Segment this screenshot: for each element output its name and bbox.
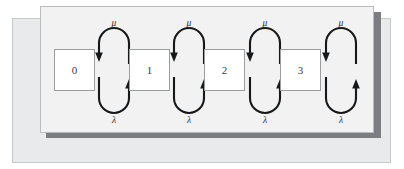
state-box-3: 3 [281, 50, 321, 91]
transition-pair-0-1: μ λ [95, 18, 133, 125]
lambda-arrowhead-3-next [352, 79, 360, 89]
mu-arrowhead-1-2 [170, 53, 178, 63]
lambda-arc-2-3 [250, 77, 280, 113]
state-box-1-label: 1 [147, 64, 153, 76]
state-transition-diagram: μ λ μ λ μ λ [41, 7, 374, 133]
lambda-arc-1-2 [174, 77, 204, 113]
transition-pair-2-3: μ λ [246, 18, 284, 125]
lambda-label-3-next: λ [338, 115, 343, 125]
mu-arrowhead-3-next [322, 53, 330, 63]
state-box-0-label: 0 [72, 64, 78, 76]
lambda-arc-3-next [326, 77, 356, 113]
lambda-label-1-2: λ [186, 115, 191, 125]
lambda-label-2-3: λ [262, 115, 267, 125]
mu-label-3-next: μ [338, 18, 344, 28]
mu-arc-3-next [326, 28, 356, 64]
state-box-2: 2 [205, 50, 245, 91]
figure-canvas: μ λ μ λ μ λ [0, 0, 404, 169]
state-box-1: 1 [130, 50, 170, 91]
transition-pair-1-2: μ λ [170, 18, 208, 125]
mu-arrowhead-2-3 [246, 53, 254, 63]
mu-arc-0-1 [99, 28, 129, 64]
state-box-2-label: 2 [222, 64, 228, 76]
mu-arc-1-2 [174, 28, 204, 64]
mu-arrowhead-0-1 [95, 53, 103, 63]
mu-label-2-3: μ [262, 18, 268, 28]
lambda-arc-0-1 [99, 77, 129, 113]
state-box-3-label: 3 [298, 64, 304, 76]
mu-label-1-2: μ [186, 18, 192, 28]
mu-arc-2-3 [250, 28, 280, 64]
inner-diagram-panel: μ λ μ λ μ λ [40, 6, 374, 133]
mu-label-0-1: μ [111, 18, 117, 28]
state-box-0: 0 [55, 50, 95, 91]
lambda-label-0-1: λ [111, 115, 116, 125]
transition-pair-3-next: μ λ [322, 18, 360, 125]
